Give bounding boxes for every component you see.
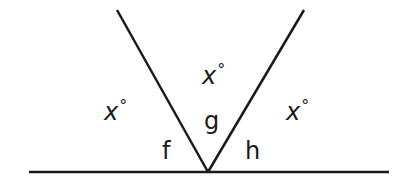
diagram-lines	[0, 0, 399, 185]
angle-label-h: h	[245, 139, 260, 163]
degree-symbol: °	[217, 60, 225, 79]
angle-label-g: g	[204, 109, 219, 133]
angle-label-x-right: x°	[286, 100, 309, 124]
degree-symbol: °	[119, 96, 127, 115]
angle-variable: x	[286, 98, 300, 126]
angle-variable: x	[202, 62, 216, 90]
angle-label-f: f	[162, 139, 170, 163]
angle-label-x-top: x°	[202, 64, 225, 88]
degree-symbol: °	[301, 96, 309, 115]
angle-diagram: x° x° x° f g h	[0, 0, 399, 185]
angle-variable: x	[104, 98, 118, 126]
angle-label-x-left: x°	[104, 100, 127, 124]
